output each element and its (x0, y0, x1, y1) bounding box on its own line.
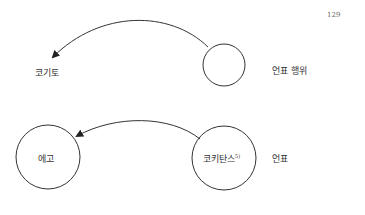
cogitans-text: 코키탄스 (203, 154, 235, 164)
footnote-marker: 5) (235, 153, 240, 159)
page-number: 129 (327, 11, 340, 19)
top-arrow (53, 20, 208, 57)
top-diagram (53, 20, 245, 86)
cogito-label: 코기토 (35, 66, 59, 79)
enunciation-act-label: 언표 행위 (272, 64, 307, 77)
ego-label: 에고 (38, 152, 54, 165)
diagram-canvas (0, 0, 365, 215)
enunciation-label: 언표 (272, 152, 288, 165)
bottom-arrow (77, 121, 200, 139)
cogitans-label: 코키탄스5) (203, 152, 240, 165)
top-circle (203, 44, 245, 86)
